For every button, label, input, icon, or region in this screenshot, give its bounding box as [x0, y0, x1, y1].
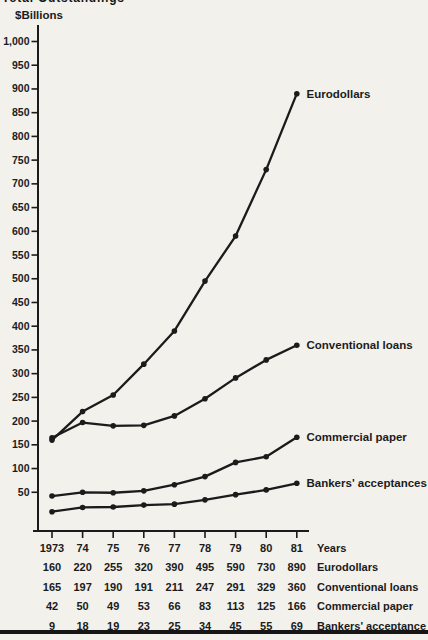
table-row-label: Eurodollars [317, 560, 378, 574]
series-point-bankers-acceptances [141, 502, 147, 508]
table-row: 160220255320390495590730890Eurodollars [0, 560, 428, 575]
y-tick-label: 900 [12, 82, 30, 94]
y-tick-label: 650 [12, 201, 30, 213]
series-point-bankers-acceptances [233, 492, 239, 498]
series-label-bankers-acceptances: Bankers' acceptances [307, 477, 427, 489]
y-tick-label: 150 [12, 438, 30, 450]
y-tick-label: 950 [12, 59, 30, 71]
series-point-eurodollars [233, 233, 239, 239]
table-row-label: Years [317, 541, 346, 555]
table-cell: 166 [274, 599, 320, 613]
series-point-conventional-loans [263, 357, 269, 363]
y-tick-label: 750 [12, 154, 30, 166]
series-line-eurodollars [52, 94, 297, 440]
y-tick-label: 200 [12, 415, 30, 427]
series-line-bankers-acceptances [52, 483, 297, 511]
series-point-bankers-acceptances [172, 501, 178, 507]
table-cell: 360 [274, 580, 320, 594]
y-tick-label: 800 [12, 130, 30, 142]
series-point-bankers-acceptances [202, 497, 208, 503]
y-tick-label: 700 [12, 177, 30, 189]
y-tick-label: 550 [12, 249, 30, 261]
series-point-bankers-acceptances [294, 480, 300, 486]
series-point-commercial-paper [172, 482, 178, 488]
series-point-bankers-acceptances [80, 505, 86, 511]
series-point-conventional-loans [172, 413, 178, 419]
table-row: 165197190191211247291329360Conventional … [0, 580, 428, 595]
series-point-commercial-paper [141, 488, 147, 494]
series-point-bankers-acceptances [263, 487, 269, 493]
series-point-eurodollars [263, 167, 269, 173]
y-tick-label: 300 [12, 367, 30, 379]
series-point-conventional-loans [80, 420, 86, 426]
bottom-rule [0, 630, 428, 634]
series-label-commercial-paper: Commercial paper [307, 431, 408, 443]
y-tick-label: 600 [12, 225, 30, 237]
series-point-commercial-paper [49, 493, 55, 499]
series-point-commercial-paper [80, 489, 86, 495]
series-point-eurodollars [141, 361, 147, 367]
series-point-conventional-loans [233, 375, 239, 381]
table-row: 425049536683113125166Commercial paper [0, 599, 428, 614]
series-point-eurodollars [294, 91, 300, 97]
series-point-eurodollars [80, 409, 86, 415]
series-point-conventional-loans [202, 396, 208, 402]
series-point-eurodollars [172, 328, 178, 334]
table-row-label: Conventional loans [317, 580, 418, 594]
series-point-eurodollars [202, 278, 208, 284]
series-point-commercial-paper [294, 434, 300, 440]
y-tick-label: 450 [12, 296, 30, 308]
series-point-conventional-loans [294, 342, 300, 348]
series-point-bankers-acceptances [110, 504, 116, 510]
series-point-conventional-loans [141, 423, 147, 429]
y-tick-label: 100 [12, 462, 30, 474]
table-row-label: Commercial paper [317, 599, 413, 613]
table-cell: 890 [274, 560, 320, 574]
chart-svg: $Billions5010015020025030035040045050055… [0, 0, 428, 538]
series-point-commercial-paper [202, 474, 208, 480]
series-point-eurodollars [110, 392, 116, 398]
series-label-conventional-loans: Conventional loans [307, 339, 413, 351]
scanned-chart-page: Total Outstandings $Billions501001502002… [0, 0, 428, 640]
series-line-conventional-loans [52, 345, 297, 438]
y-tick-label: 850 [12, 106, 30, 118]
y-axis-unit-label: $Billions [15, 9, 63, 21]
table-cell: 81 [274, 541, 320, 555]
series-point-conventional-loans [110, 423, 116, 429]
series-point-bankers-acceptances [49, 509, 55, 515]
series-point-commercial-paper [233, 460, 239, 466]
series-point-commercial-paper [110, 490, 116, 496]
series-point-commercial-paper [263, 454, 269, 460]
series-label-eurodollars: Eurodollars [307, 88, 371, 100]
y-tick-label: 350 [12, 343, 30, 355]
table-row: 19737475767778798081Years [0, 541, 428, 556]
y-tick-label: 250 [12, 391, 30, 403]
y-tick-label: 1,000 [3, 35, 29, 47]
y-tick-label: 500 [12, 272, 30, 284]
y-tick-label: 400 [12, 320, 30, 332]
series-point-conventional-loans [49, 435, 55, 441]
y-tick-label: 50 [18, 486, 30, 498]
